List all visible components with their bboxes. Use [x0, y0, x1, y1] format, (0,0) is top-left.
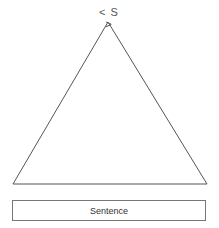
- sentence-box: Sentence: [12, 200, 206, 221]
- sentence-label: Sentence: [90, 206, 128, 216]
- triangle-shape: [0, 0, 219, 228]
